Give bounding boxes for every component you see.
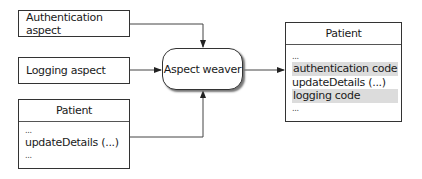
patient-output-line: ... — [292, 51, 396, 62]
woven-authentication-code: authentication code — [292, 62, 398, 76]
logging-aspect-node: Logging aspect — [18, 57, 130, 84]
aspect-weaver-label: Aspect weaver — [164, 63, 241, 76]
patient-output-class-node: Patient ... authentication code updateDe… — [285, 22, 402, 122]
woven-logging-code: logging code — [292, 89, 398, 103]
authentication-aspect-node: Authentication aspect — [18, 10, 130, 37]
patient-input-line: ... — [25, 150, 124, 161]
patient-input-body: ... updateDetails (...) ... — [19, 122, 129, 161]
patient-output-line: ... — [292, 103, 396, 114]
aspect-weaver-node: Aspect weaver — [162, 48, 243, 90]
patient-output-title: Patient — [286, 23, 401, 45]
patient-output-body: ... authentication code updateDetails (.… — [286, 45, 401, 114]
patient-input-class-node: Patient ... updateDetails (...) ... — [18, 99, 130, 169]
patient-input-title: Patient — [19, 100, 129, 122]
patient-input-line: updateDetails (...) — [25, 136, 124, 150]
patient-output-line: updateDetails (...) — [292, 76, 396, 90]
edge-patient-to-weaver — [130, 91, 203, 137]
patient-input-line: ... — [25, 125, 124, 136]
edge-auth-to-weaver — [130, 24, 203, 47]
authentication-aspect-label: Authentication aspect — [26, 11, 129, 37]
logging-aspect-label: Logging aspect — [26, 64, 106, 77]
